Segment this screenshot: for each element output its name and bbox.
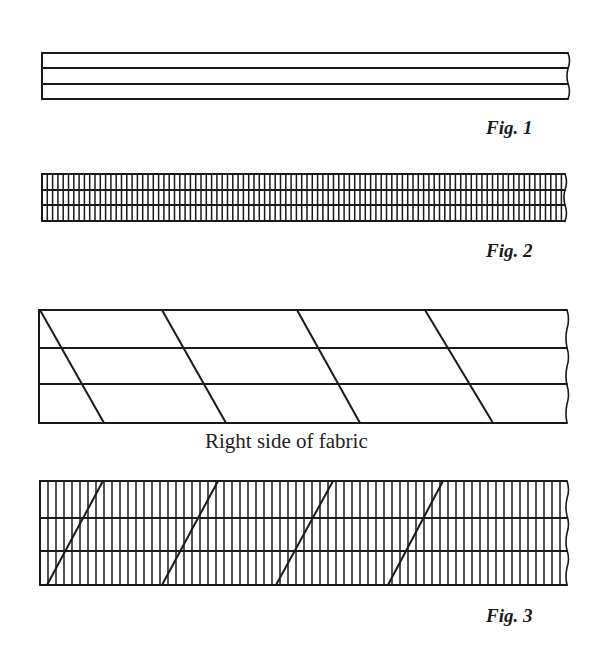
torn-edge-line	[564, 174, 567, 221]
fig3-bias-lines-grid-strip	[40, 481, 569, 585]
fabric-strip-diagrams	[0, 0, 604, 649]
torn-edge-line	[566, 310, 569, 423]
torn-edge-line	[566, 481, 569, 585]
right-side-of-fabric-caption: Right side of fabric	[205, 429, 368, 454]
bias-cut-line	[162, 310, 226, 423]
fig1-plain-strip	[42, 53, 570, 99]
fig1-label: Fig. 1	[486, 117, 532, 139]
bias-cut-line	[297, 310, 360, 423]
bias-cut-line	[425, 310, 493, 423]
fig2-label: Fig. 2	[486, 240, 532, 262]
torn-edge-line	[567, 53, 570, 99]
fig2-grid-strip	[42, 174, 567, 221]
bias-cut-line	[40, 310, 104, 423]
fig3-bias-lines-right-side	[39, 310, 569, 423]
bias-cut-line	[162, 481, 218, 585]
fig3-label: Fig. 3	[486, 605, 532, 627]
